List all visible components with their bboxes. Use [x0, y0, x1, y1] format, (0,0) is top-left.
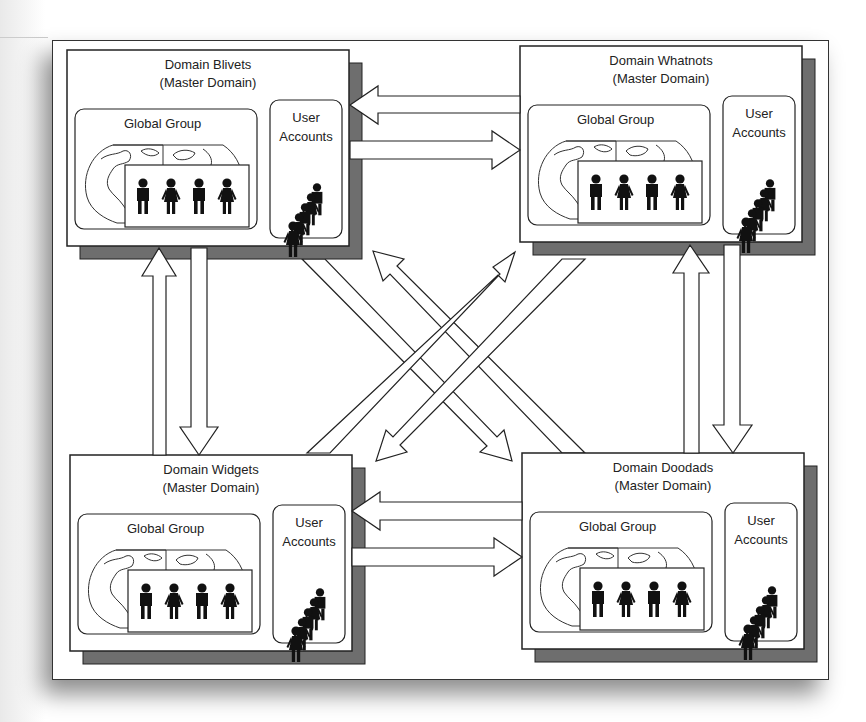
user-accounts-label: User Accounts	[723, 104, 795, 142]
domain-name: Domain Doodads	[522, 459, 804, 477]
domain-name: Domain Widgets	[70, 461, 352, 479]
domain-title-widgets: Domain Widgets (Master Domain)	[70, 461, 352, 497]
vertical-arrows	[142, 245, 752, 455]
user-accounts-label: User Accounts	[725, 511, 797, 549]
user-accounts-label: User Accounts	[270, 108, 342, 146]
user-accounts-line1: User	[725, 511, 797, 530]
domain-title-whatnots: Domain Whatnots (Master Domain)	[520, 52, 802, 88]
user-accounts-line1: User	[270, 108, 342, 127]
user-accounts-line2: Accounts	[273, 532, 345, 551]
domain-role: (Master Domain)	[70, 479, 352, 497]
arrow-whatnots-to-doodads	[713, 245, 752, 453]
user-accounts-line2: Accounts	[723, 123, 795, 142]
arrow-whatnots-to-blivets	[350, 86, 520, 124]
global-group-label: Global Group	[127, 521, 204, 536]
domain-title-doodads: Domain Doodads (Master Domain)	[522, 459, 804, 495]
arrow-blivets-to-widgets	[180, 248, 218, 455]
arrow-doodads-to-whatnots	[673, 245, 709, 453]
domain-role: (Master Domain)	[522, 477, 804, 495]
user-accounts-line1: User	[273, 513, 345, 532]
domain-role: (Master Domain)	[520, 70, 802, 88]
user-accounts-label: User Accounts	[273, 513, 345, 551]
domain-name: Domain Whatnots	[520, 52, 802, 70]
global-group-label: Global Group	[577, 112, 654, 127]
arrow-widgets-to-doodads	[352, 538, 522, 576]
domain-role: (Master Domain)	[67, 74, 349, 92]
user-accounts-line2: Accounts	[725, 530, 797, 549]
global-group-label: Global Group	[124, 116, 201, 131]
diagonal-arrows	[302, 251, 585, 461]
domain-title-blivets: Domain Blivets (Master Domain)	[67, 56, 349, 92]
global-group-label: Global Group	[579, 519, 656, 534]
arrow-widgets-to-blivets	[142, 248, 176, 455]
arrow-blivets-to-whatnots	[350, 131, 520, 169]
arrow-doodads-to-widgets	[352, 492, 522, 530]
user-accounts-line1: User	[723, 104, 795, 123]
domain-name: Domain Blivets	[67, 56, 349, 74]
user-accounts-line2: Accounts	[270, 127, 342, 146]
